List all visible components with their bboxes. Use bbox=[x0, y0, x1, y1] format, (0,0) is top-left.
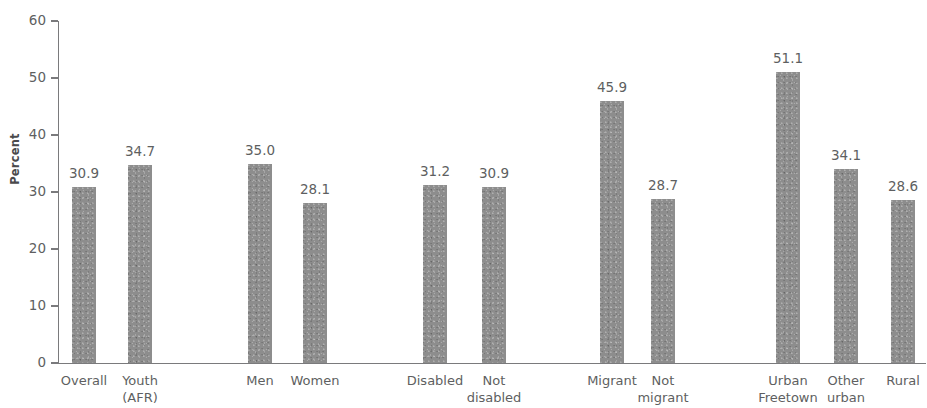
y-axis-tick-label: 50 bbox=[8, 71, 46, 85]
x-axis-category-label: Rural bbox=[858, 372, 927, 389]
bar bbox=[600, 101, 624, 363]
y-axis-tick bbox=[51, 77, 58, 78]
y-axis-tick-label: 30 bbox=[8, 185, 46, 199]
x-axis-category-label: Women bbox=[270, 372, 360, 389]
y-axis-tick bbox=[51, 191, 58, 192]
bar bbox=[776, 72, 800, 363]
y-axis-tick-label: 0 bbox=[8, 356, 46, 370]
y-axis-tick bbox=[51, 248, 58, 249]
bar-value-label: 30.9 bbox=[54, 167, 114, 181]
bar bbox=[303, 203, 327, 363]
bar bbox=[651, 199, 675, 363]
bar bbox=[891, 200, 915, 363]
bar-value-label: 28.6 bbox=[873, 180, 927, 194]
y-axis-tick-label: 20 bbox=[8, 242, 46, 256]
bar-value-label: 30.9 bbox=[464, 167, 524, 181]
bar-value-label: 51.1 bbox=[758, 52, 818, 66]
bar-value-label: 45.9 bbox=[582, 81, 642, 95]
bar bbox=[128, 165, 152, 363]
bar-value-label: 28.1 bbox=[285, 183, 345, 197]
x-axis-category-label: Youth (AFR) bbox=[95, 372, 185, 406]
y-axis-tick-label: 40 bbox=[8, 128, 46, 142]
y-axis-tick bbox=[51, 362, 58, 363]
y-axis-tick bbox=[51, 305, 58, 306]
bar-value-label: 28.7 bbox=[633, 179, 693, 193]
x-axis-category-label: Not migrant bbox=[618, 372, 708, 406]
bar bbox=[423, 185, 447, 363]
y-axis-tick-label: 10 bbox=[8, 299, 46, 313]
bar-value-label: 34.1 bbox=[816, 149, 876, 163]
x-axis-category-label: Not disabled bbox=[449, 372, 539, 406]
y-axis-tick-label: 60 bbox=[8, 14, 46, 28]
bar bbox=[834, 169, 858, 363]
y-axis-line bbox=[58, 21, 59, 363]
bar-value-label: 35.0 bbox=[230, 144, 290, 158]
bar-chart: Percent 0102030405060 30.9Overall34.7You… bbox=[0, 0, 927, 408]
bar-value-label: 34.7 bbox=[110, 145, 170, 159]
bar bbox=[482, 187, 506, 363]
bar bbox=[72, 187, 96, 363]
y-axis-tick bbox=[51, 134, 58, 135]
y-axis-tick bbox=[51, 20, 58, 21]
bar-value-label: 31.2 bbox=[405, 165, 465, 179]
bar bbox=[248, 164, 272, 364]
